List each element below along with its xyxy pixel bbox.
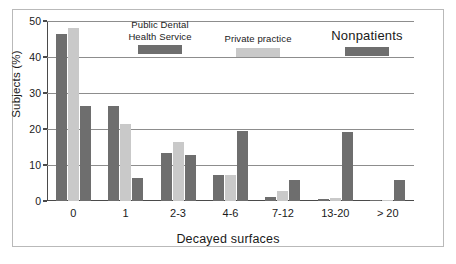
y-tick-label: 40 [29,51,41,63]
y-axis-title: Subjects (%) [10,24,22,144]
legend-swatch-public-dental-health-service [138,45,182,54]
bar [80,106,91,201]
bar [185,155,196,201]
bar [68,28,79,201]
x-tick-label: 0 [47,207,99,219]
bar [318,199,329,201]
x-tick-label: 4-6 [204,207,256,219]
legend-label-public-dental-health-service: Public Dental Health Service [108,19,212,42]
bar [120,124,131,201]
y-tick-label: 50 [29,15,41,27]
bar-group: 0 [47,21,99,201]
chart-figure: Subjects (%) 01020304050 012-34-67-1213-… [0,0,456,264]
bar [132,178,143,201]
bar [289,180,300,201]
legend-item-private-practice: Private practice [206,33,310,57]
legend-label-private-practice: Private practice [206,33,310,45]
bar [370,200,381,201]
x-tick-label: 13-20 [309,207,361,219]
y-tick-label: 20 [29,123,41,135]
bar [277,191,288,201]
bar [225,175,236,201]
y-tick-label: 10 [29,159,41,171]
bar [265,197,276,201]
bar [330,198,341,201]
bar [213,175,224,201]
x-tick-label: > 20 [362,207,414,219]
bar [173,142,184,201]
x-axis-title: Decayed surfaces [0,232,456,246]
x-tick-label: 1 [99,207,151,219]
legend-label-nonpatients: Nonpatients [312,28,422,44]
y-tick-label: 0 [35,195,41,207]
legend-item-public-dental-health-service: Public Dental Health Service [108,19,212,54]
y-tick-label: 30 [29,87,41,99]
legend-item-nonpatients: Nonpatients [312,28,422,56]
bar [56,34,67,201]
bar [237,131,248,201]
bar [394,180,405,201]
x-tick-label: 7-12 [257,207,309,219]
bar [342,132,353,201]
bar [382,200,393,201]
legend-swatch-nonpatients [345,47,389,56]
bar [108,106,119,201]
x-tick-label: 2-3 [152,207,204,219]
legend-swatch-private-practice [236,48,280,57]
bar [161,153,172,201]
